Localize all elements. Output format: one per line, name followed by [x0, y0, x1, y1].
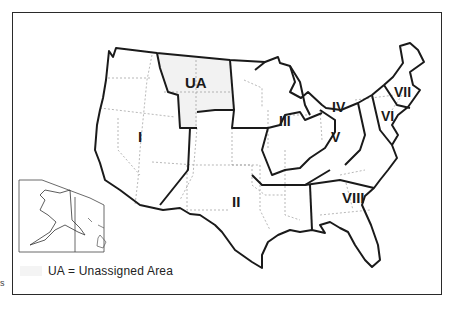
legend-swatch	[20, 266, 42, 276]
alaska-shape	[30, 190, 85, 245]
hawaii-shape	[88, 218, 106, 248]
label-region-vi: VI	[381, 108, 394, 124]
label-region-ii: II	[232, 193, 240, 210]
legend-text: UA = Unassigned Area	[48, 264, 173, 278]
region-borders	[95, 43, 424, 268]
us-outline	[95, 43, 424, 268]
us-regions-map: UA I II III IV V VI VII VIII	[0, 0, 449, 309]
label-region-viii: VIII	[342, 189, 365, 206]
label-region-iv: IV	[332, 99, 346, 115]
label-region-i: I	[138, 128, 142, 145]
margin-text: s	[0, 278, 5, 288]
label-region-v: V	[331, 129, 341, 145]
label-region-iii: III	[279, 113, 291, 129]
label-ua: UA	[185, 74, 207, 91]
label-region-vii: VII	[394, 84, 411, 100]
inset-alaska-hawaii	[19, 180, 106, 252]
map-legend: UA = Unassigned Area	[20, 264, 173, 278]
